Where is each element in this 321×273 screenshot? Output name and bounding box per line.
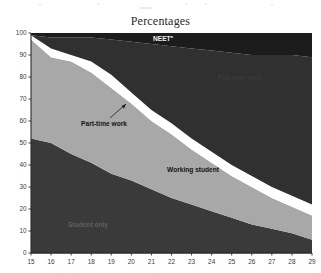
y-tick-label: 20: [19, 205, 27, 212]
y-tick-label: 40: [19, 161, 27, 168]
y-tick-label: 50: [19, 139, 27, 146]
x-tick-label: 24: [208, 258, 216, 265]
x-tick-label: 29: [308, 258, 316, 265]
y-tick-label: 10: [19, 227, 27, 234]
series-label-working-student: Working student: [167, 166, 220, 174]
series-label-student-only: Student only: [68, 221, 108, 229]
x-tick-label: 26: [248, 258, 256, 265]
series-label-neet-text: NEET: [153, 35, 171, 42]
y-tick-label: 0: [23, 249, 27, 256]
x-tick-label: 22: [168, 258, 176, 265]
x-tick-label: 20: [128, 258, 136, 265]
y-tick-label: 30: [19, 183, 27, 190]
x-tick-label: 16: [48, 258, 56, 265]
chart-plot-area: 1009080706050403020100151617181920212223…: [0, 0, 321, 273]
y-tick-label: 90: [19, 51, 27, 58]
x-tick-label: 23: [188, 258, 196, 265]
x-tick-label: 27: [268, 258, 276, 265]
x-tick-label: 18: [88, 258, 96, 265]
series-label-full-time-work: Full-time work: [218, 74, 263, 81]
x-tick-label: 15: [27, 258, 35, 265]
series-label-part-time-work: Part-time work: [81, 120, 127, 127]
figure-container: Percentages 1009080706050403020100151617…: [0, 0, 321, 273]
x-tick-label: 28: [288, 258, 296, 265]
x-tick-label: 21: [148, 258, 156, 265]
x-tick-label: 17: [68, 258, 76, 265]
y-tick-label: 80: [19, 73, 27, 80]
x-tick-label: 19: [108, 258, 116, 265]
x-tick-label: 25: [228, 258, 236, 265]
y-tick-label: 70: [19, 95, 27, 102]
series-label-neet: NEETa: [153, 34, 174, 42]
stacked-area-chart: 1009080706050403020100151617181920212223…: [0, 0, 321, 273]
y-tick-label: 60: [19, 117, 27, 124]
y-tick-label: 100: [16, 29, 27, 36]
